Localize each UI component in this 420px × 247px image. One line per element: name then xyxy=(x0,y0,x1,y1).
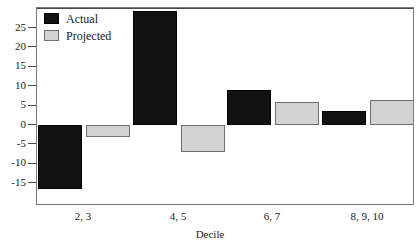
y-axis-tick-label: 5 xyxy=(0,99,26,110)
x-axis-tick-label: 2, 3 xyxy=(75,210,92,222)
x-axis-tick-label: 8, 9, 10 xyxy=(351,210,384,222)
y-axis-tick xyxy=(28,85,36,86)
legend-swatch-projected xyxy=(44,30,59,41)
y-axis-tick xyxy=(28,46,36,47)
bar-chart: 2520151050-5-10-15 ActualProjected 2, 34… xyxy=(0,0,420,247)
y-axis-tick-label: 0 xyxy=(0,119,26,130)
bar-actual-2 xyxy=(227,90,271,125)
legend: ActualProjected xyxy=(44,12,111,42)
bar-projected-0 xyxy=(86,125,130,137)
y-axis-tick xyxy=(28,182,36,183)
bar-projected-3 xyxy=(370,100,414,125)
x-axis-tick-label: 6, 7 xyxy=(264,210,281,222)
y-axis-tick xyxy=(28,105,36,106)
legend-label: Projected xyxy=(66,30,111,42)
bar-actual-1 xyxy=(133,11,177,125)
bar-actual-0 xyxy=(38,125,82,189)
y-axis-tick-label: 10 xyxy=(0,80,26,91)
bar-projected-1 xyxy=(181,125,225,152)
y-axis-labels: 2520151050-5-10-15 xyxy=(0,0,26,247)
y-axis-tick-label: 15 xyxy=(0,60,26,71)
y-axis-tick xyxy=(28,66,36,67)
x-axis-title: Decile xyxy=(0,228,420,240)
zero-baseline xyxy=(37,8,413,9)
legend-item-projected: Projected xyxy=(44,29,111,42)
y-axis-tick-label: 20 xyxy=(0,41,26,52)
y-axis-tick-label: -5 xyxy=(0,138,26,149)
y-axis-tick xyxy=(28,163,36,164)
y-axis-tick xyxy=(28,27,36,28)
y-axis-tick-label: -15 xyxy=(0,177,26,188)
bar-actual-3 xyxy=(322,111,366,125)
x-axis-tick-label: 4, 5 xyxy=(170,210,187,222)
legend-item-actual: Actual xyxy=(44,12,111,25)
y-axis-tick xyxy=(28,124,36,125)
legend-label: Actual xyxy=(66,13,98,25)
y-axis-tick-label: -10 xyxy=(0,157,26,168)
y-axis-tick xyxy=(28,143,36,144)
legend-swatch-actual xyxy=(44,13,59,24)
y-axis-tick-label: 25 xyxy=(0,22,26,33)
bar-projected-2 xyxy=(275,102,319,125)
